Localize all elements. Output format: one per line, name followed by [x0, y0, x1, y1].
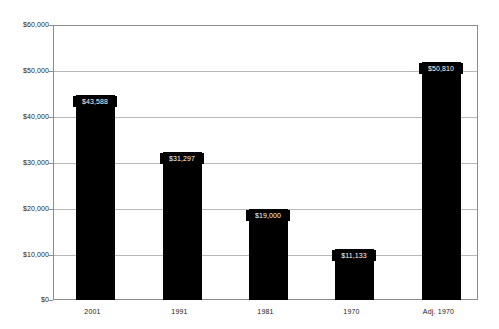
y-tick-label: $50,000: [23, 67, 49, 75]
y-tick-label: $60,000: [23, 21, 49, 29]
bar-chart: $60,000 $50,000 $40,000 $30,000 $20,000 …: [0, 0, 499, 329]
plot-area: [53, 25, 478, 300]
y-axis: $60,000 $50,000 $40,000 $30,000 $20,000 …: [0, 0, 49, 329]
bar-value-label-adj-1970: $50,810: [419, 63, 463, 74]
bar-value-label-1991: $31,297: [160, 153, 204, 164]
gridline: [54, 71, 477, 72]
y-tick-label: $30,000: [23, 159, 49, 167]
y-tick-label: $40,000: [23, 113, 49, 121]
gridline: [54, 163, 477, 164]
x-tick-label-adj-1970: Adj. 1970: [399, 307, 478, 316]
x-tick-label-1991: 1991: [140, 307, 219, 316]
bar-value-label-2001: $43,588: [73, 96, 117, 107]
bar-adj-1970[interactable]: [422, 62, 461, 300]
bar-2001[interactable]: [76, 95, 115, 300]
bar-value-label-1970: $11,133: [332, 250, 376, 261]
x-tick-label-1981: 1981: [226, 307, 305, 316]
x-tick-label-1970: 1970: [312, 307, 391, 316]
y-tick-mark: [48, 300, 53, 301]
y-tick-label: $10,000: [23, 251, 49, 259]
bar-1981[interactable]: [249, 209, 288, 300]
y-tick-label: $20,000: [23, 205, 49, 213]
bar-value-label-1981: $19,000: [246, 210, 290, 221]
bar-1991[interactable]: [163, 152, 202, 300]
gridline: [54, 117, 477, 118]
x-tick-label-2001: 2001: [53, 307, 132, 316]
